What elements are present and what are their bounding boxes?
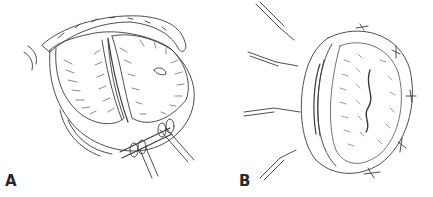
panel-label-a: A [5, 172, 17, 190]
panel-b-illustration [240, 0, 433, 197]
panel-a-illustration [20, 0, 220, 197]
panel-label-b: B [239, 172, 250, 190]
